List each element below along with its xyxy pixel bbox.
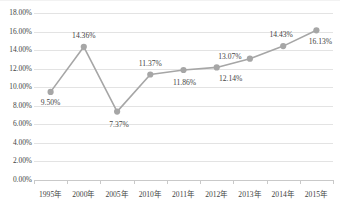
x-axis-category-label: 2011年 (172, 190, 195, 199)
data-point-label: 14.36% (72, 32, 95, 40)
data-point-marker (313, 27, 319, 33)
line-chart: 18.00%16.00%14.00%12.00%10.00%8.00%6.00%… (0, 0, 340, 211)
data-point-label: 11.86% (173, 79, 196, 87)
data-point-marker (48, 89, 54, 95)
x-axis-category-label: 2015年 (305, 190, 328, 199)
data-point-label: 11.37% (139, 60, 162, 68)
data-point-label: 9.50% (41, 99, 61, 107)
data-point-marker (81, 44, 87, 50)
x-axis-category-label: 2014年 (272, 190, 295, 199)
data-point-marker (247, 56, 253, 62)
x-axis-category-label: 1995年 (39, 190, 62, 199)
x-axis-category-label: 2005年 (105, 190, 128, 199)
data-point-label: 16.13% (309, 38, 332, 46)
x-axis-category-label: 2010年 (139, 190, 162, 199)
data-point-marker (114, 109, 120, 115)
x-axis-category-label: 2013年 (238, 190, 261, 199)
data-point-label: 13.07% (218, 53, 241, 61)
data-point-label: 14.43% (269, 31, 292, 39)
data-point-label: 7.37% (109, 121, 129, 129)
data-point-marker (180, 67, 186, 73)
data-point-marker (214, 64, 220, 70)
data-point-label: 12.14% (219, 75, 242, 83)
data-point-marker (147, 71, 153, 77)
data-point-marker (280, 43, 286, 49)
x-axis-category-label: 2000年 (72, 190, 95, 199)
x-axis-category-label: 2012年 (205, 190, 228, 199)
series-markers (48, 27, 320, 115)
